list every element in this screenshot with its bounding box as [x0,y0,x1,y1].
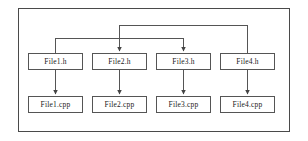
node-file2cpp[interactable]: File2.cpp [92,96,147,113]
node-file2h[interactable]: File2.h [92,53,147,70]
node-file1h[interactable]: File1.h [28,53,83,70]
node-file1cpp[interactable]: File1.cpp [28,96,83,113]
node-file3h-label: File3.h [172,58,194,66]
node-file4h[interactable]: File4.h [220,53,275,70]
diagram-frame [18,8,290,132]
node-file1cpp-label: File1.cpp [41,101,71,109]
node-file3cpp-label: File3.cpp [169,101,199,109]
node-file3cpp[interactable]: File3.cpp [156,96,211,113]
node-file2h-label: File2.h [108,58,130,66]
node-file1h-label: File1.h [44,58,66,66]
node-file2cpp-label: File2.cpp [105,101,135,109]
node-file3h[interactable]: File3.h [156,53,211,70]
node-file4cpp[interactable]: File4.cpp [220,96,275,113]
node-file4cpp-label: File4.cpp [233,101,263,109]
node-file4h-label: File4.h [236,58,258,66]
diagram-canvas: File1.h File2.h File3.h File4.h File1.cp… [0,0,308,141]
